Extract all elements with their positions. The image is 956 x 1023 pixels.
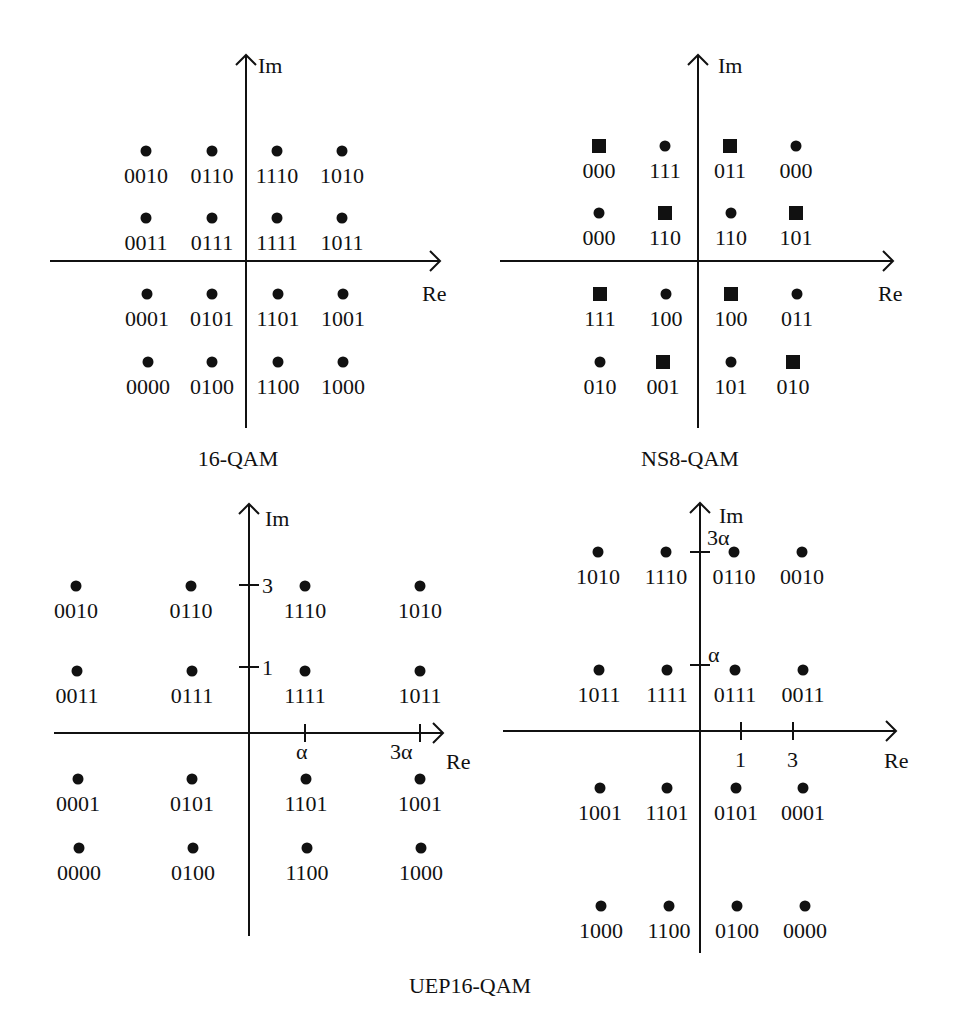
panel-16qam: ReIm001001101110101000110111111110110001… [50,53,446,428]
circle-marker-icon [416,843,427,854]
circle-marker-icon [272,146,283,157]
caption-ns8qam: NS8-QAM [641,446,739,471]
symbol-label: 1001 [398,791,442,816]
circle-marker-icon [300,581,311,592]
symbol-label: 1010 [320,163,364,188]
square-marker-icon [786,355,800,369]
circle-marker-icon [301,774,312,785]
symbol-label: 0010 [780,564,824,589]
square-marker-icon [592,139,606,153]
symbol-label: 000 [583,225,616,250]
symbol-label: 1100 [256,374,299,399]
symbol-label: 001 [647,374,680,399]
symbol-label: 010 [777,374,810,399]
symbol-label: 110 [649,225,681,250]
circle-marker-icon [72,666,83,677]
symbol-label: 0100 [715,918,759,943]
symbol-label: 011 [714,158,746,183]
circle-marker-icon [338,357,349,368]
symbol-label: 1100 [647,918,690,943]
circle-marker-icon [188,843,199,854]
x-tick-label: 1 [735,747,746,772]
square-marker-icon [656,355,670,369]
im-axis-label: Im [265,506,289,531]
symbol-label: 1110 [645,564,687,589]
circle-marker-icon [594,208,605,219]
circle-marker-icon [415,666,426,677]
symbol-label: 1000 [399,860,443,885]
circle-marker-icon [273,357,284,368]
circle-marker-icon [73,774,84,785]
circle-marker-icon [732,901,743,912]
symbol-label: 1011 [398,683,441,708]
symbol-label: 0000 [126,374,170,399]
circle-marker-icon [74,843,85,854]
x-tick-label: 3α [390,739,413,764]
circle-marker-icon [186,581,197,592]
y-tick-label: α [708,642,720,667]
symbol-label: 111 [649,158,680,183]
symbol-label: 0001 [125,306,169,331]
im-axis-label: Im [258,53,282,78]
circle-marker-icon [731,783,742,794]
symbol-label: 0100 [171,860,215,885]
symbol-label: 1001 [578,800,622,825]
symbol-label: 1111 [646,682,688,707]
constellation-figure: ReIm001001101110101000110111111110110001… [0,0,956,1023]
symbol-label: 100 [715,306,748,331]
symbol-label: 1011 [577,682,620,707]
symbol-label: 1110 [284,598,326,623]
symbol-label: 0001 [56,791,100,816]
circle-marker-icon [664,901,675,912]
circle-marker-icon [595,783,606,794]
symbol-label: 1011 [320,230,363,255]
circle-marker-icon [415,581,426,592]
circle-marker-icon [207,289,218,300]
symbol-label: 0001 [781,800,825,825]
circle-marker-icon [661,289,672,300]
re-axis-label: Re [884,748,908,773]
symbol-label: 0000 [783,918,827,943]
symbol-label: 0110 [169,598,212,623]
symbol-label: 1101 [256,306,299,331]
panel-uep16qam-right: ReIm133αα1010111001100010101111110111001… [503,503,908,953]
square-marker-icon [593,287,607,301]
caption-16qam: 16-QAM [198,446,279,471]
circle-marker-icon [596,901,607,912]
circle-marker-icon [797,547,808,558]
symbol-label: 0110 [190,163,233,188]
symbol-label: 0011 [781,682,824,707]
symbol-label: 0010 [124,163,168,188]
circle-marker-icon [800,901,811,912]
circle-marker-icon [798,783,809,794]
symbol-label: 0000 [57,860,101,885]
symbol-label: 110 [715,225,747,250]
caption-uep16qam: UEP16-QAM [409,973,531,998]
circle-marker-icon [207,357,218,368]
circle-marker-icon [730,665,741,676]
symbol-label: 1111 [256,230,298,255]
symbol-label: 111 [584,306,615,331]
symbol-label: 0111 [171,683,213,708]
symbol-label: 0110 [712,564,755,589]
re-axis-label: Re [446,749,470,774]
circle-marker-icon [302,843,313,854]
symbol-label: 1110 [256,163,298,188]
square-marker-icon [723,139,737,153]
circle-marker-icon [415,774,426,785]
symbol-label: 1010 [398,598,442,623]
symbol-label: 0101 [190,306,234,331]
symbol-label: 0101 [170,791,214,816]
circle-marker-icon [595,357,606,368]
symbol-label: 010 [584,374,617,399]
symbol-label: 100 [650,306,683,331]
circle-marker-icon [798,665,809,676]
square-marker-icon [789,206,803,220]
circle-marker-icon [726,208,737,219]
symbol-label: 0111 [714,682,756,707]
symbol-label: 1001 [321,306,365,331]
x-tick-label: α [296,739,308,764]
im-axis-label: Im [718,53,742,78]
circle-marker-icon [791,141,802,152]
circle-marker-icon [593,547,604,558]
